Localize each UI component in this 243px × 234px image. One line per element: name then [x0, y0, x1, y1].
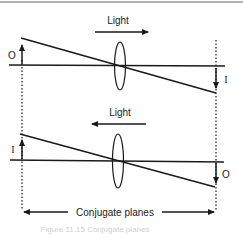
conjugate-planes-diagram: Light O I Light [0, 0, 243, 234]
dimension-label: Conjugate planes [76, 207, 154, 218]
top-left-label: O [8, 50, 16, 61]
bottom-light-label: Light [109, 107, 131, 118]
top-light-label: Light [107, 15, 129, 26]
diagram-canvas: Light O I Light [0, 0, 243, 234]
top-panel: Light O I [8, 15, 228, 93]
bottom-left-label: I [11, 144, 14, 155]
bottom-right-label: O [222, 169, 230, 180]
top-right-label: I [224, 74, 227, 85]
bottom-panel: Light I O [10, 107, 230, 188]
conjugate-planes-dimension: Conjugate planes [24, 207, 214, 218]
figure-caption: Figure 11.15 Conjugate planes [41, 225, 150, 234]
